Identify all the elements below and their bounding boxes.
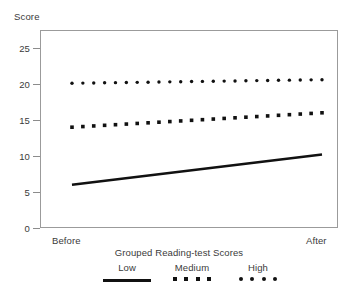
y-tick-label: 5	[4, 187, 30, 198]
legend-label-high: High	[227, 262, 289, 273]
y-axis-title: Score	[14, 11, 40, 22]
legend-title: Grouped Reading-test Scores	[0, 247, 358, 258]
y-tick-label: 0	[4, 223, 30, 234]
legend-swatch-medium	[166, 276, 218, 284]
y-tick-mark	[33, 48, 40, 49]
y-tick-mark	[33, 120, 40, 121]
plot-area	[40, 30, 338, 228]
legend-label-low: Low	[96, 262, 158, 273]
chart-figure: Score 0510152025 Before After Grouped Re…	[0, 0, 358, 291]
legend-item-high: High	[227, 262, 289, 284]
y-tick-label: 15	[4, 115, 30, 126]
legend-swatch-high	[232, 276, 284, 284]
y-tick-mark	[33, 84, 40, 85]
x-tick-label-after: After	[306, 235, 327, 246]
square-marker-icon	[166, 277, 218, 281]
y-tick-label: 25	[4, 43, 30, 54]
x-tick-label-before: Before	[52, 235, 81, 246]
solid-line-icon	[103, 279, 151, 282]
y-tick-label: 20	[4, 79, 30, 90]
legend-label-medium: Medium	[161, 262, 223, 273]
y-tick-mark	[33, 156, 40, 157]
legend: Low Medium High	[96, 262, 286, 288]
y-tick-mark	[33, 192, 40, 193]
legend-swatch-low	[101, 276, 153, 284]
legend-item-low: Low	[96, 262, 158, 284]
dot-marker-icon	[232, 277, 284, 281]
y-tick-mark	[33, 228, 40, 229]
y-tick-label: 10	[4, 151, 30, 162]
legend-item-medium: Medium	[161, 262, 223, 284]
